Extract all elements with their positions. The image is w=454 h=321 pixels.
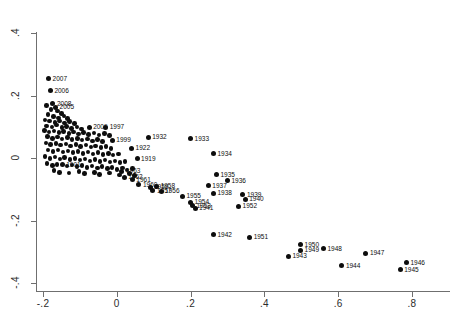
data-point-label: 1919 [141, 156, 155, 163]
data-point [113, 159, 118, 164]
data-point [82, 171, 87, 176]
data-point [76, 149, 81, 154]
data-point [71, 130, 76, 135]
data-point [122, 175, 127, 180]
data-point-label: 1948 [327, 246, 341, 253]
data-point [55, 162, 60, 167]
data-point [93, 144, 98, 149]
data-point [71, 150, 76, 155]
data-point [46, 76, 51, 81]
data-point [118, 160, 123, 165]
data-point [99, 145, 104, 150]
data-point [130, 166, 135, 171]
data-point [214, 172, 219, 177]
y-tick-label: 0 [10, 147, 21, 169]
data-point-label: 1944 [346, 263, 360, 270]
data-point [98, 159, 103, 164]
data-point [286, 254, 291, 259]
data-point [47, 119, 52, 124]
data-point [58, 143, 63, 148]
data-point [298, 242, 303, 247]
data-point [54, 123, 59, 128]
data-point [75, 136, 80, 141]
data-point [68, 144, 73, 149]
data-point [62, 155, 67, 160]
data-point [85, 137, 90, 142]
data-point [97, 172, 102, 177]
data-point [188, 136, 193, 141]
x-tick-label: .2 [178, 298, 204, 309]
data-point [117, 173, 122, 178]
data-point [50, 136, 55, 141]
x-tick-label: .8 [399, 298, 425, 309]
data-point [53, 155, 58, 160]
data-point [206, 183, 211, 188]
data-point [88, 159, 93, 164]
x-tick-mark [117, 292, 118, 297]
data-point [55, 135, 60, 140]
data-point [96, 150, 101, 155]
y-tick-label: .2 [10, 84, 21, 106]
data-point [130, 177, 135, 182]
data-point [123, 159, 128, 164]
data-point [46, 112, 51, 117]
data-point-label: 1932 [152, 134, 166, 141]
data-point [146, 135, 151, 140]
data-point [404, 260, 409, 265]
x-tick-mark [338, 292, 339, 297]
data-point [103, 158, 108, 163]
y-tick-mark [31, 221, 36, 222]
data-point [116, 152, 121, 157]
data-point [211, 232, 216, 237]
data-point [65, 135, 70, 140]
y-axis-line [36, 32, 37, 291]
data-point [120, 166, 125, 171]
data-point [110, 138, 115, 143]
data-point-label: 1936 [232, 178, 246, 185]
data-point [48, 142, 53, 147]
data-point [363, 251, 368, 256]
data-point [83, 157, 88, 162]
x-tick-label: .6 [325, 298, 351, 309]
data-point-label: 1997 [110, 124, 124, 131]
y-tick-mark [31, 96, 36, 97]
data-point [80, 163, 85, 168]
data-point-label: 1943 [292, 253, 306, 260]
data-point [51, 149, 56, 154]
y-tick-mark [31, 283, 36, 284]
data-point [61, 150, 66, 155]
data-point [81, 151, 86, 156]
data-point [193, 206, 198, 211]
data-point [95, 137, 100, 142]
x-tick-mark [191, 292, 192, 297]
x-tick-mark [264, 292, 265, 297]
data-point [100, 139, 105, 144]
data-point [60, 162, 65, 167]
data-point-label: 1945 [404, 267, 418, 274]
x-tick-mark [412, 292, 413, 297]
data-point [84, 143, 89, 148]
data-point [135, 156, 140, 161]
data-point [321, 246, 326, 251]
x-tick-label: -.2 [30, 298, 56, 309]
y-tick-mark [31, 33, 36, 34]
data-point [86, 150, 91, 155]
x-axis-line [36, 291, 450, 292]
data-point-label: 1922 [136, 145, 150, 152]
data-point [236, 204, 241, 209]
data-point-label: 1999 [116, 137, 130, 144]
data-point [64, 124, 69, 129]
data-point [150, 188, 155, 193]
data-point [129, 146, 134, 151]
data-point [77, 169, 82, 174]
data-point [56, 148, 61, 153]
data-point [70, 137, 75, 142]
data-point [49, 107, 54, 112]
data-point [101, 152, 106, 157]
data-point [66, 149, 71, 154]
data-point [61, 129, 66, 134]
data-point-label: 1947 [370, 250, 384, 257]
x-tick-label: 0 [104, 298, 130, 309]
data-point [80, 138, 85, 143]
data-point [102, 131, 107, 136]
